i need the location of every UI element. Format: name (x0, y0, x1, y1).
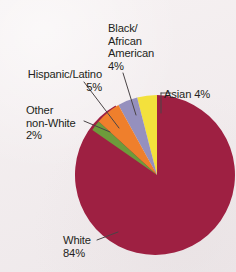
slice-label-asian: Asian 4% (164, 88, 210, 101)
slice-label-white: White 84% (63, 234, 91, 259)
slice-label-hispanic-latino: Hispanic/Latino 5% (4, 68, 102, 93)
slice-label-black-african-american: Black/ African American 4% (108, 22, 154, 72)
pie-chart-figure: Black/ African American 4% Hispanic/Lati… (0, 0, 236, 272)
slice-label-other-non-white: Other non-White 2% (26, 104, 102, 142)
